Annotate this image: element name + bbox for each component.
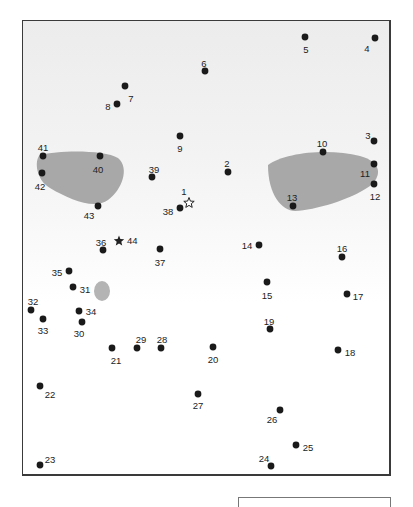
dot-label-16: 16: [337, 243, 348, 254]
dot-23: [37, 462, 44, 469]
dot-label-24: 24: [259, 453, 270, 464]
start-star-icon: [184, 198, 194, 208]
dot-11: [371, 161, 378, 168]
dot-16: [339, 254, 346, 261]
right-eye-shape: [268, 152, 378, 211]
dot-label-14: 14: [242, 240, 253, 251]
dot-27: [195, 391, 202, 398]
dot-label-40: 40: [93, 164, 104, 175]
dot-label-21: 21: [111, 355, 122, 366]
dot-37: [157, 246, 164, 253]
dot-40: [97, 153, 104, 160]
dot-4: [372, 35, 379, 42]
dot-label-6: 6: [201, 58, 206, 69]
dot-label-4: 4: [364, 43, 369, 54]
dot-5: [302, 34, 309, 41]
dot-29: [134, 345, 141, 352]
dot-label-23: 23: [45, 454, 56, 465]
dot-label-26: 26: [267, 414, 278, 425]
dot-label-18: 18: [345, 347, 356, 358]
small-oval: [94, 281, 110, 301]
dot-label-42: 42: [35, 181, 46, 192]
dot-25: [293, 442, 300, 449]
dot-label-37: 37: [155, 257, 166, 268]
dot-label-41: 41: [38, 142, 49, 153]
dot-label-3: 3: [365, 130, 370, 141]
dot-35: [66, 268, 73, 275]
dot-34: [76, 308, 83, 315]
dot-28: [158, 345, 165, 352]
dot-label-30: 30: [74, 328, 85, 339]
dot-label-43: 43: [84, 210, 95, 221]
dot-38: [177, 205, 184, 212]
dot-2: [225, 169, 232, 176]
end-label: 44: [127, 235, 138, 246]
dot-label-20: 20: [208, 354, 219, 365]
dot-9: [177, 133, 184, 140]
dot-label-33: 33: [38, 325, 49, 336]
dot-label-36: 36: [96, 237, 107, 248]
dot-label-27: 27: [193, 400, 204, 411]
dot-10: [320, 149, 327, 156]
dot-label-9: 9: [177, 143, 182, 154]
dot-17: [344, 291, 351, 298]
dot-label-11: 11: [360, 168, 370, 179]
dot-label-29: 29: [136, 334, 147, 345]
dot-label-19: 19: [264, 316, 275, 327]
dot-label-17: 17: [353, 291, 364, 302]
dot-33: [40, 316, 47, 323]
dot-22: [37, 383, 44, 390]
left-eye-shape: [37, 152, 124, 205]
dot-31: [70, 284, 77, 291]
dot-42: [39, 170, 46, 177]
start-label: 1: [181, 186, 186, 197]
dot-20: [210, 344, 217, 351]
dot-label-12: 12: [370, 191, 381, 202]
dot-18: [335, 347, 342, 354]
dot-14: [256, 242, 263, 249]
dot-label-38: 38: [163, 206, 174, 217]
dot-label-15: 15: [262, 290, 273, 301]
dot-43: [95, 203, 102, 210]
dot-label-10: 10: [317, 138, 328, 149]
dot-label-34: 34: [86, 306, 97, 317]
dot-label-35: 35: [52, 267, 63, 278]
dot-30: [79, 319, 86, 326]
dot-15: [264, 279, 271, 286]
dot-label-5: 5: [303, 44, 308, 55]
dot-21: [109, 345, 116, 352]
dot-3: [371, 138, 378, 145]
dot-label-8: 8: [105, 101, 110, 112]
dots-layer: 2345678910111213141516171819202122232425…: [28, 34, 381, 470]
dot-label-28: 28: [157, 334, 168, 345]
dot-label-22: 22: [45, 389, 56, 400]
dot-label-13: 13: [287, 192, 298, 203]
dot-12: [371, 181, 378, 188]
dot-26: [277, 407, 284, 414]
dot-41: [40, 153, 47, 160]
dot-label-39: 39: [149, 164, 160, 175]
dot-7: [122, 83, 129, 90]
dot-8: [114, 101, 121, 108]
dot-13: [290, 203, 297, 210]
answer-box: [238, 497, 391, 507]
dot-label-32: 32: [28, 296, 39, 307]
dot-32: [28, 307, 35, 314]
dot-label-2: 2: [224, 158, 229, 169]
dot-label-7: 7: [128, 93, 133, 104]
dot-label-25: 25: [303, 442, 314, 453]
dot-label-31: 31: [80, 284, 91, 295]
end-star-icon: [114, 236, 124, 246]
